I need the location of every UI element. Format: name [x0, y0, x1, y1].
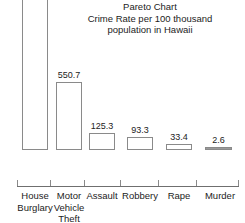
bar-value-label: 93.3	[131, 125, 149, 135]
bar-column: 33.4	[166, 112, 192, 150]
category-label-line: Robbery	[119, 190, 161, 202]
plot-area: 911.6 550.7 125.3 93.3 33.4 2.6	[0, 0, 245, 187]
category-label-line: Vehicle	[49, 202, 89, 214]
bar-value-label: 125.3	[91, 121, 114, 131]
category-label-rape: Rape	[159, 190, 199, 202]
category-label-line: Assault	[83, 190, 121, 202]
category-label-line: Rape	[159, 190, 199, 202]
bar-column: 911.6	[22, 0, 48, 150]
bar-column: 550.7	[56, 45, 82, 150]
bar-house-burglary	[22, 0, 48, 150]
axis-tick	[196, 180, 197, 186]
axis-tick	[50, 180, 51, 186]
bar-assault	[89, 133, 115, 150]
bar-robbery	[127, 137, 153, 150]
pareto-chart: Pareto Chart Crime Rate per 100 thousand…	[0, 0, 245, 223]
axis-tick	[17, 180, 18, 186]
category-label-murder: Murder	[198, 190, 242, 202]
bar-murder	[205, 147, 232, 150]
bar-rape	[166, 144, 192, 150]
axis-tick	[158, 180, 159, 186]
category-label-assault: Assault	[83, 190, 121, 202]
bar-column: 93.3	[127, 105, 153, 150]
x-axis-line	[17, 186, 239, 187]
bar-value-label: 2.6	[212, 135, 225, 145]
axis-tick	[120, 180, 121, 186]
category-label-line: Murder	[198, 190, 242, 202]
bar-motor-vehicle-theft	[56, 82, 82, 150]
category-label-line: Theft	[49, 213, 89, 223]
bar-column: 125.3	[89, 100, 115, 150]
axis-tick	[84, 180, 85, 186]
bar-column: 2.6	[205, 116, 232, 150]
bar-value-label: 33.4	[170, 132, 188, 142]
axis-tick	[238, 180, 239, 186]
bar-value-label: 550.7	[58, 70, 81, 80]
category-label-robbery: Robbery	[119, 190, 161, 202]
